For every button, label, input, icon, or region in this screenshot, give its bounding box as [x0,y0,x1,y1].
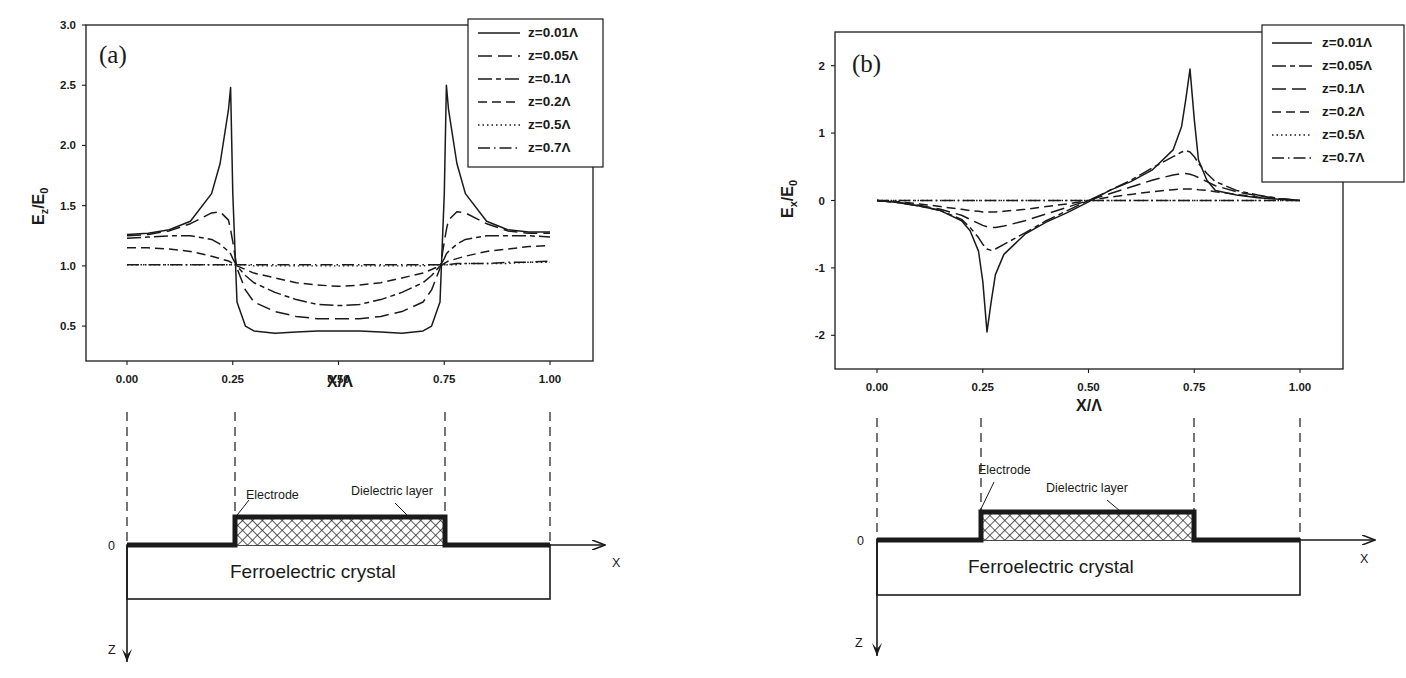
x-tick-label: 0.50 [1077,381,1099,393]
x-tick-label: 0.25 [972,381,995,393]
y-tick-label: 0.5 [60,320,77,332]
chart-a-y-axis-label: Ez/E0 [30,188,50,225]
x-tick-label: 0.75 [433,373,456,385]
z-label-b: Z [855,636,863,650]
legend-entry: z=0.05Λ [528,48,578,63]
series-line [127,236,550,306]
dielectric-label-a: Dielectric layer [351,484,433,498]
legend-entry: z=0.1Λ [528,71,570,86]
crystal-label-a: Ferroelectric crystal [230,561,396,582]
y-tick-label: -2 [815,329,825,341]
electrode-pointer-b [980,482,994,511]
chart-b: 0.000.250.500.751.00-2-1012 (b) Ex/E0 X/… [779,25,1404,414]
device-diagram-b: Electrode Dielectric layer Ferroelectric… [855,418,1375,656]
legend-entry: z=0.2Λ [1322,104,1364,119]
chart-a-x-axis-label: X/Λ [327,373,353,390]
figure: 0.000.250.500.751.000.51.01.52.02.53.0 (… [0,0,1406,678]
chart-a: 0.000.250.500.751.000.51.01.52.02.53.0 (… [30,19,603,390]
y-tick-label: 1.0 [60,260,76,272]
chart-b-y-axis-label: Ex/E0 [779,180,799,218]
x-tick-label: 0.25 [222,373,245,385]
legend-entry: z=0.1Λ [1322,81,1364,96]
y-tick-label: 1 [819,127,826,139]
x-tick-label: 0.75 [1183,381,1206,393]
legend-entry: z=0.5Λ [528,117,570,132]
figure-canvas: 0.000.250.500.751.000.51.01.52.02.53.0 (… [0,0,1406,678]
legend-entry: z=0.2Λ [528,94,570,109]
y-tick-label: 0 [819,195,825,207]
dielectric-pointer-b [1107,500,1120,511]
x-tick-label: 1.00 [1289,381,1311,393]
y-tick-label: 1.5 [60,200,77,212]
y-tick-label: 2.5 [60,79,77,91]
dielectric-layer-a [235,519,445,545]
y-tick-label: -1 [815,262,826,274]
panel-label-a: (a) [99,41,127,69]
origin-label-a: 0 [108,539,115,553]
dielectric-label-b: Dielectric layer [1046,481,1128,495]
crystal-label-b: Ferroelectric crystal [968,556,1134,577]
y-tick-label: 2.0 [60,139,76,151]
legend-entry: z=0.7Λ [1322,150,1364,165]
y-tick-label: 3.0 [60,19,76,31]
legend-entry: z=0.7Λ [528,140,570,155]
x-tick-label: 0.00 [866,381,888,393]
origin-label-b: 0 [857,534,864,548]
panel-label-b: (b) [852,50,881,78]
x-label-b: X [1360,552,1369,566]
electrode-label-b: Electrode [978,463,1031,477]
x-tick-label: 0.00 [116,373,138,385]
legend-entry: z=0.01Λ [528,25,578,40]
chart-b-legend: z=0.01Λz=0.05Λz=0.1Λz=0.2Λz=0.5Λz=0.7Λ [1262,25,1404,182]
legend-entry: z=0.01Λ [1322,35,1372,50]
series-line [127,262,550,266]
x-tick-label: 1.00 [539,373,561,385]
z-label-a: Z [108,643,116,657]
device-diagram-a: Electrode Dielectric layer Ferroelectric… [108,412,621,662]
legend-entry: z=0.05Λ [1322,58,1372,73]
chart-a-legend: z=0.01Λz=0.05Λz=0.1Λz=0.2Λz=0.5Λz=0.7Λ [468,19,603,167]
x-label-a: X [612,556,621,570]
legend-entry: z=0.5Λ [1322,127,1364,142]
dielectric-layer-b [981,513,1194,540]
chart-b-x-axis-label: X/Λ [1076,397,1102,414]
electrode-label-a: Electrode [246,488,299,502]
y-tick-label: 2 [819,60,825,72]
